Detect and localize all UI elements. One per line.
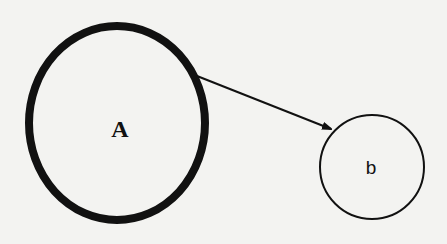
node-b: b bbox=[320, 115, 424, 219]
edge-a-to-b bbox=[197, 76, 331, 129]
node-a-label: A bbox=[111, 116, 129, 142]
node-a: A bbox=[29, 26, 205, 220]
node-b-label: b bbox=[366, 157, 377, 178]
diagram-canvas: A b bbox=[0, 0, 447, 244]
